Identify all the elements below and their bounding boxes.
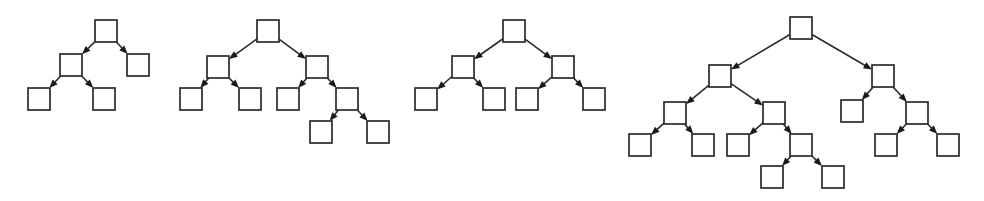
node-box[interactable] [692, 134, 714, 156]
tree-node-leaf[interactable] [239, 88, 261, 110]
tree-node-leaf[interactable] [127, 54, 149, 76]
node-box[interactable] [28, 88, 50, 110]
tree-edge [525, 39, 547, 55]
tree-node-internal[interactable] [664, 102, 686, 124]
tree-node-leaf[interactable] [629, 134, 651, 156]
node-box[interactable] [875, 134, 897, 156]
tree-node-internal[interactable] [763, 102, 785, 124]
tree-edge [893, 87, 902, 97]
tree-node-root[interactable] [503, 20, 525, 42]
tree-edge [479, 39, 503, 56]
tree-1 [28, 20, 149, 110]
tree-node-leaf[interactable] [28, 88, 50, 110]
tree-node-root[interactable] [95, 20, 117, 42]
node-box[interactable] [552, 56, 574, 78]
node-box[interactable] [207, 56, 229, 78]
tree-nodes [28, 20, 149, 110]
node-box[interactable] [516, 88, 538, 110]
node-box[interactable] [937, 134, 959, 156]
tree-node-internal[interactable] [872, 65, 894, 87]
tree-node-leaf[interactable] [415, 88, 437, 110]
edge-arrowhead-icon [543, 51, 552, 59]
tree-diagram-figure [0, 0, 984, 201]
node-box[interactable] [763, 102, 785, 124]
node-box[interactable] [483, 88, 505, 110]
node-box[interactable] [727, 134, 749, 156]
node-box[interactable] [127, 54, 149, 76]
tree-node-internal[interactable] [207, 56, 229, 78]
tree-2 [180, 20, 389, 143]
tree-node-leaf[interactable] [180, 88, 202, 110]
tree-node-leaf[interactable] [761, 166, 783, 188]
edge-arrowhead-icon [754, 98, 763, 106]
node-box[interactable] [822, 166, 844, 188]
tree-4 [629, 17, 959, 188]
tree-edge [812, 34, 866, 66]
tree-node-root[interactable] [790, 17, 812, 39]
tree-3 [415, 20, 605, 110]
node-box[interactable] [60, 54, 82, 76]
node-box[interactable] [790, 134, 812, 156]
node-box[interactable] [790, 17, 812, 39]
node-box[interactable] [583, 88, 605, 110]
tree-edge [731, 84, 758, 102]
tree-node-leaf[interactable] [692, 134, 714, 156]
tree-node-leaf[interactable] [727, 134, 749, 156]
tree-node-internal[interactable] [306, 56, 328, 78]
node-box[interactable] [872, 65, 894, 87]
node-box[interactable] [180, 88, 202, 110]
tree-node-leaf[interactable] [516, 88, 538, 110]
tree-node-internal[interactable] [336, 88, 358, 110]
node-box[interactable] [95, 20, 117, 42]
tree-node-leaf[interactable] [93, 88, 115, 110]
edge-arrowhead-icon [474, 52, 483, 60]
node-box[interactable] [336, 88, 358, 110]
edge-arrowhead-icon [229, 51, 238, 59]
node-box[interactable] [503, 20, 525, 42]
node-box[interactable] [709, 65, 731, 87]
tree-node-internal[interactable] [790, 134, 812, 156]
tree-node-leaf[interactable] [937, 134, 959, 156]
edge-arrowhead-icon [863, 62, 872, 69]
node-box[interactable] [841, 100, 863, 122]
tree-node-leaf[interactable] [310, 121, 332, 143]
tree-edge [234, 39, 257, 55]
node-box[interactable] [415, 88, 437, 110]
node-box[interactable] [239, 88, 261, 110]
tree-node-leaf[interactable] [841, 100, 863, 122]
node-box[interactable] [277, 88, 299, 110]
edge-arrowhead-icon [731, 62, 740, 69]
node-box[interactable] [310, 121, 332, 143]
tree-edge [737, 35, 790, 67]
tree-canvas [0, 0, 984, 201]
tree-node-internal[interactable] [452, 56, 474, 78]
tree-node-internal[interactable] [552, 56, 574, 78]
tree-node-leaf[interactable] [875, 134, 897, 156]
node-box[interactable] [257, 20, 279, 42]
edge-arrowhead-icon [297, 51, 306, 59]
tree-edge [279, 39, 301, 55]
tree-node-leaf[interactable] [483, 88, 505, 110]
tree-node-leaf[interactable] [583, 88, 605, 110]
node-box[interactable] [452, 56, 474, 78]
tree-node-internal[interactable] [60, 54, 82, 76]
tree-nodes [629, 17, 959, 188]
tree-node-root[interactable] [257, 20, 279, 42]
tree-edge [691, 85, 709, 100]
node-box[interactable] [906, 102, 928, 124]
tree-node-leaf[interactable] [822, 166, 844, 188]
node-box[interactable] [664, 102, 686, 124]
tree-nodes [180, 20, 389, 143]
node-box[interactable] [629, 134, 651, 156]
tree-nodes [415, 20, 605, 110]
tree-node-internal[interactable] [906, 102, 928, 124]
node-box[interactable] [367, 121, 389, 143]
tree-node-leaf[interactable] [367, 121, 389, 143]
node-box[interactable] [306, 56, 328, 78]
node-box[interactable] [93, 88, 115, 110]
node-box[interactable] [761, 166, 783, 188]
tree-node-leaf[interactable] [277, 88, 299, 110]
tree-node-internal[interactable] [709, 65, 731, 87]
